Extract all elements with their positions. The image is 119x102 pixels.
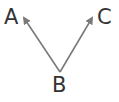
node-a-label: A bbox=[4, 6, 18, 28]
diagram-canvas: A B C bbox=[0, 0, 119, 102]
edge-b-to-c-arrow-icon bbox=[60, 18, 92, 72]
node-c-label: C bbox=[97, 6, 112, 28]
edge-b-to-a-arrow-icon bbox=[24, 18, 60, 72]
node-b-label: B bbox=[52, 74, 66, 96]
